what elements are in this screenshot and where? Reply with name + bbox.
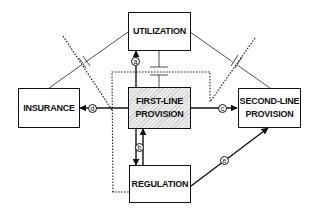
node-insurance: INSURANCE: [18, 88, 80, 128]
node-label-line2: PROVISION: [135, 108, 183, 121]
thin-connector-utilization-insurance: [49, 32, 128, 88]
edge-label-e: e: [220, 156, 229, 165]
node-first-line-provision: FIRST-LINE PROVISION: [128, 87, 191, 129]
node-label-line2: PROVISION: [245, 108, 293, 121]
edge-label-a: a: [131, 57, 140, 66]
node-label: UTILIZATION: [133, 25, 186, 38]
arrow-e: [191, 128, 268, 186]
edge-label-c: c: [218, 104, 227, 113]
node-label-line1: SECOND-LINE: [240, 95, 300, 108]
node-label: REGULATION: [132, 178, 189, 191]
node-label: INSURANCE: [23, 102, 75, 115]
edge-label-d: d: [88, 104, 97, 113]
connector-utilization-first-line: [150, 50, 168, 87]
node-regulation: REGULATION: [129, 165, 191, 203]
thin-connector-utilization-second-line: [190, 32, 270, 88]
edge-label-b: b: [135, 143, 144, 152]
node-label-line1: FIRST-LINE: [136, 95, 183, 108]
node-utilization: UTILIZATION: [128, 12, 191, 51]
node-second-line-provision: SECOND-LINE PROVISION: [238, 88, 301, 128]
